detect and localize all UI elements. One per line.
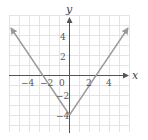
y-tick-4: 4 bbox=[60, 32, 66, 42]
y-tick-neg2: −2 bbox=[56, 91, 69, 101]
y-axis-label: y bbox=[65, 3, 73, 16]
x-tick-2: 2 bbox=[86, 78, 92, 88]
x-tick-neg4: −4 bbox=[21, 78, 35, 88]
y-tick-neg4: −4 bbox=[56, 111, 70, 121]
x-tick-4: 4 bbox=[106, 78, 112, 88]
origin-label: 0 bbox=[59, 78, 65, 88]
coordinate-plane: y x −4 −2 0 2 4 4 2 −2 −4 bbox=[0, 0, 148, 140]
x-tick-neg2: −2 bbox=[40, 78, 53, 88]
x-axis-label: x bbox=[132, 69, 139, 82]
y-tick-2: 2 bbox=[60, 52, 66, 62]
